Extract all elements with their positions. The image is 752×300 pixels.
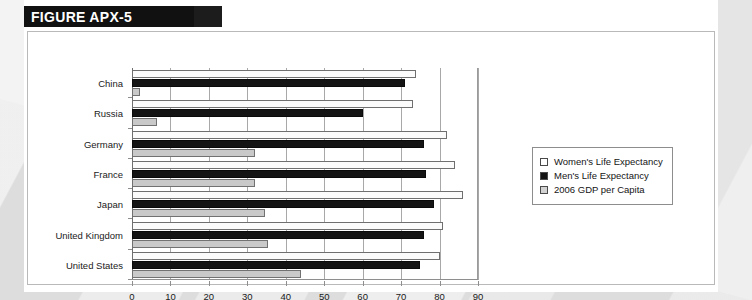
bar-white-france: [132, 161, 455, 169]
legend-swatch-white: [540, 158, 548, 166]
bar-gray-united-states: [132, 270, 301, 278]
x-axis-label: 0: [129, 291, 134, 300]
legend-swatch-gray: [540, 186, 548, 194]
plot-area: ChinaRussiaGermanyFranceJapanUnited King…: [132, 68, 478, 300]
bar-white-germany: [132, 131, 447, 139]
category-label-china: China: [98, 78, 123, 89]
bar-black-united-states: [132, 261, 420, 269]
bar-gray-china: [132, 88, 140, 96]
bar-black-japan: [132, 200, 434, 208]
bar-gray-germany: [132, 149, 255, 157]
chart-row: United Kingdom: [132, 219, 477, 249]
x-tick-20: [209, 281, 210, 286]
bar-white-japan: [132, 191, 463, 199]
x-axis-label: 80: [434, 291, 445, 300]
category-label-france: France: [93, 168, 123, 179]
figure-title-banner: FIGURE APX-5: [24, 6, 194, 27]
x-axis-label: 50: [319, 291, 330, 300]
x-axis-label: 40: [280, 291, 291, 300]
gridline-90: [478, 68, 479, 280]
x-tick-70: [401, 281, 402, 286]
bar-gray-france: [132, 179, 255, 187]
bar-black-china: [132, 79, 405, 87]
category-label-japan: Japan: [97, 199, 123, 210]
category-label-germany: Germany: [84, 138, 123, 149]
category-label-russia: Russia: [94, 108, 123, 119]
plot-inner: ChinaRussiaGermanyFranceJapanUnited King…: [132, 68, 478, 280]
page-title: FIGURE APX-5: [24, 9, 132, 25]
chart-row: United States: [132, 250, 477, 280]
x-tick-30: [247, 281, 248, 286]
category-label-united-kingdom: United Kingdom: [55, 229, 123, 240]
x-tick-40: [286, 281, 287, 286]
legend-label: 2006 GDP per Capita: [554, 184, 645, 195]
x-tick-90: [478, 281, 479, 286]
legend-label: Women's Life Expectancy: [554, 156, 663, 167]
x-tick-0: [132, 281, 133, 286]
bar-black-france: [132, 170, 426, 178]
bar-gray-russia: [132, 118, 157, 126]
x-axis-label: 90: [473, 291, 484, 300]
x-tick-80: [440, 281, 441, 286]
bar-white-russia: [132, 100, 413, 108]
legend-item[interactable]: Women's Life Expectancy: [540, 156, 663, 167]
legend-label: Men's Life Expectancy: [554, 170, 649, 181]
x-axis-line: [132, 279, 478, 280]
x-axis-label: 10: [165, 291, 176, 300]
bar-gray-united-kingdom: [132, 240, 268, 248]
x-tick-10: [170, 281, 171, 286]
x-axis-label: 30: [242, 291, 253, 300]
bar-black-united-kingdom: [132, 231, 424, 239]
chart-row: China: [132, 68, 477, 98]
chart-row: Germany: [132, 129, 477, 159]
chart-row: Japan: [132, 189, 477, 219]
chart-row: France: [132, 159, 477, 189]
bar-white-china: [132, 70, 416, 78]
x-tick-60: [363, 281, 364, 286]
x-axis-label: 70: [396, 291, 407, 300]
legend-item[interactable]: Men's Life Expectancy: [540, 170, 663, 181]
chart-legend: Women's Life ExpectancyMen's Life Expect…: [532, 147, 673, 205]
x-tick-50: [324, 281, 325, 286]
bar-black-germany: [132, 140, 424, 148]
bar-white-united-kingdom: [132, 222, 443, 230]
bar-gray-japan: [132, 209, 265, 217]
legend-swatch-black: [540, 172, 548, 180]
title-banner-tail: [194, 6, 222, 27]
bar-white-united-states: [132, 252, 440, 260]
bar-black-russia: [132, 109, 363, 117]
x-axis-label: 60: [357, 291, 368, 300]
category-label-united-states: United States: [66, 259, 123, 270]
legend-item[interactable]: 2006 GDP per Capita: [540, 184, 663, 195]
chart-frame: ChinaRussiaGermanyFranceJapanUnited King…: [27, 31, 715, 285]
chart-row: Russia: [132, 98, 477, 128]
x-axis-label: 20: [204, 291, 215, 300]
